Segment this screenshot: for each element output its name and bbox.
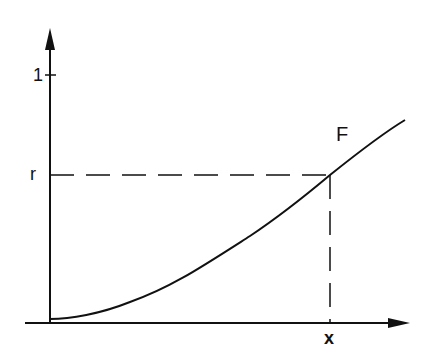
curve-label-F: F [336,124,348,144]
curve-F [50,120,405,319]
x-axis-arrow-icon [388,318,410,328]
y-label-r: r [30,165,36,183]
y-axis-arrow-icon [45,28,55,50]
x-label-x: x [324,329,334,347]
diagram-canvas: 1 r x F [0,0,431,358]
plot-svg [0,0,431,358]
y-label-1: 1 [33,66,43,84]
